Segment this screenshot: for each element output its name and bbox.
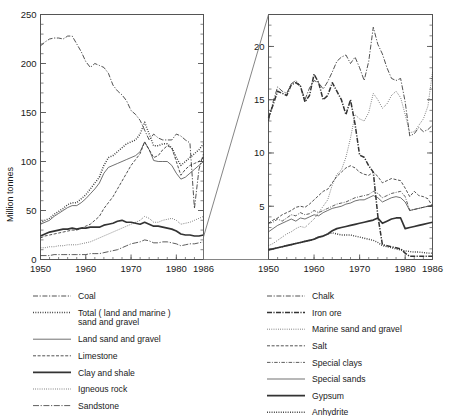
legend-label[interactable]: Chalk xyxy=(312,291,335,301)
y-tick-label: 100 xyxy=(21,156,37,167)
x-tick-label: 1950 xyxy=(258,263,279,274)
series-line xyxy=(41,142,204,238)
x-tick-label: 1950 xyxy=(30,263,51,274)
series-line xyxy=(269,196,433,232)
y-tick-label: 15 xyxy=(254,94,265,105)
plot-frame xyxy=(41,15,204,260)
chart-figure: Million tonnes 0501001502002501950196019… xyxy=(0,0,452,416)
legend-left-column: CoalTotal ( land and marine )sand and gr… xyxy=(33,291,171,411)
y-axis-title: Million tonnes xyxy=(5,166,15,222)
legend-label[interactable]: Land sand and gravel xyxy=(78,334,161,344)
legend-label[interactable]: Special clays xyxy=(312,358,362,368)
series-line xyxy=(41,36,204,208)
left-panel: 05010015020025019501960197019801986 xyxy=(21,9,214,274)
x-tick-label: 1986 xyxy=(193,263,214,274)
series-line xyxy=(269,233,433,253)
chart-svg: Million tonnes 0501001502002501950196019… xyxy=(0,0,452,416)
x-tick-label: 1960 xyxy=(303,263,324,274)
legend-label[interactable]: Limestone xyxy=(78,351,118,361)
legend-label[interactable]: Coal xyxy=(78,291,96,301)
x-tick-label: 1980 xyxy=(166,263,187,274)
legend-label[interactable]: Igneous rock xyxy=(78,384,128,394)
legend-label[interactable]: Iron ore xyxy=(312,308,342,318)
x-tick-label: 1970 xyxy=(349,263,370,274)
series-line xyxy=(41,240,204,256)
legend-label[interactable]: Anhydrite xyxy=(312,407,349,416)
y-tick-label: 200 xyxy=(21,58,37,69)
series-line xyxy=(269,166,433,224)
right-panel: 510152019501960197019801986 xyxy=(254,15,443,274)
series-line xyxy=(41,122,204,223)
series-line xyxy=(269,27,433,136)
y-tick-label: 250 xyxy=(21,9,37,20)
y-tick-label: 150 xyxy=(21,107,37,118)
legend-label[interactable]: Marine sand and gravel xyxy=(312,324,402,334)
x-tick-label: 1970 xyxy=(120,263,141,274)
series-line xyxy=(269,218,433,250)
x-tick-label: 1980 xyxy=(395,263,416,274)
y-tick-label: 10 xyxy=(254,147,265,158)
legend-right-column: ChalkIron oreMarine sand and gravelSaltS… xyxy=(267,291,402,416)
y-tick-label: 5 xyxy=(259,201,264,212)
legend-label[interactable]: Special sands xyxy=(312,374,366,384)
series-line xyxy=(41,142,204,224)
series-line xyxy=(41,220,204,236)
x-tick-label: 1986 xyxy=(422,263,443,274)
y-tick-label: 50 xyxy=(26,205,37,216)
legend-label[interactable]: Gypsum xyxy=(312,391,344,401)
legend-label[interactable]: Clay and shale xyxy=(78,368,135,378)
legend-label[interactable]: Sandstone xyxy=(78,401,119,411)
series-line xyxy=(269,74,433,256)
legend-label[interactable]: Salt xyxy=(312,341,327,351)
legend-label-line2[interactable]: sand and gravel xyxy=(78,317,139,327)
x-tick-label: 1960 xyxy=(75,263,96,274)
